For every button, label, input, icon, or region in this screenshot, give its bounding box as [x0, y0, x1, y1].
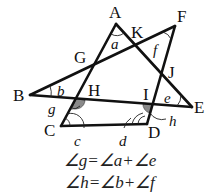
- angle-f-arc: [163, 32, 171, 39]
- label-B: B: [13, 86, 24, 105]
- angle-label-d: d: [119, 133, 127, 149]
- angle-d-arc-3: [124, 118, 131, 128]
- angle-label-a: a: [111, 36, 119, 52]
- angle-label-c: c: [74, 133, 81, 149]
- label-D: D: [148, 123, 160, 142]
- label-G: G: [74, 48, 86, 67]
- angle-h-arc: [150, 113, 166, 120]
- angle-label-f: f: [153, 42, 159, 58]
- angle-label-b: b: [57, 83, 65, 99]
- angle-label-g: g: [48, 101, 56, 117]
- equation-angle-h: ∠h=∠b+∠f: [0, 172, 220, 193]
- label-F: F: [177, 7, 186, 26]
- segment-CD: [61, 124, 147, 126]
- equation-angle-g: ∠g=∠a+∠e: [0, 150, 220, 171]
- label-J: J: [168, 63, 175, 82]
- label-I: I: [143, 85, 149, 104]
- angle-d-arc-2: [132, 113, 143, 124]
- angle-label-e: e: [164, 90, 171, 106]
- angle-e-arc: [177, 95, 181, 106]
- label-A: A: [109, 3, 122, 22]
- label-C: C: [44, 121, 55, 140]
- label-H: H: [88, 81, 100, 100]
- segment-BF: [30, 26, 175, 95]
- angle-label-h: h: [169, 113, 177, 129]
- label-E: E: [194, 98, 204, 117]
- label-K: K: [131, 23, 144, 42]
